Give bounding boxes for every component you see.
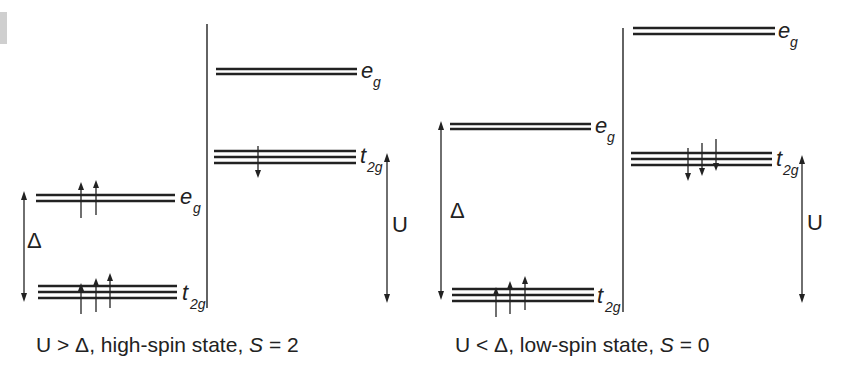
svg-text:e: e — [595, 113, 607, 138]
svg-text:t: t — [182, 280, 189, 305]
panel1-left-t2g-level — [38, 286, 177, 298]
svg-text:e: e — [778, 18, 790, 43]
panel1-right-eg-level — [216, 69, 357, 74]
svg-text:g: g — [607, 129, 615, 145]
panel2-right-eg-level — [633, 28, 775, 34]
p1-left-eg-label: e — [180, 184, 192, 209]
svg-text:t: t — [360, 143, 367, 168]
svg-text:t: t — [776, 146, 783, 171]
panel2-left-eg-level — [450, 124, 591, 129]
svg-text:U: U — [392, 212, 408, 237]
svg-text:2g: 2g — [189, 296, 206, 312]
svg-text:t: t — [597, 283, 604, 308]
svg-text:g: g — [373, 74, 381, 90]
svg-text:e: e — [361, 58, 373, 83]
svg-text:2g: 2g — [782, 162, 799, 178]
panel1-u-arrow — [384, 153, 390, 303]
panel1-left-t2g-electrons — [78, 273, 113, 314]
panel2-left-t2g-level — [452, 289, 594, 301]
caption-low-spin: U < Δ, low-spin state, S = 0 — [455, 333, 710, 357]
spin-value: = 0 — [674, 333, 710, 356]
svg-text:U: U — [807, 210, 823, 235]
svg-text:2g: 2g — [366, 159, 383, 175]
panel2-u-arrow — [799, 155, 805, 303]
svg-text:2g: 2g — [604, 299, 621, 315]
svg-text:Δ: Δ — [27, 228, 42, 253]
panel1-left-eg-level — [36, 195, 175, 201]
svg-text:g: g — [193, 200, 201, 216]
energy-level-diagram: e g t 2g Δ e g t 2g U e g t 2g Δ e g t 2… — [0, 0, 844, 376]
spin-symbol: S — [249, 333, 263, 356]
caption-text: U > Δ, high-spin state, — [36, 333, 249, 356]
svg-text:g: g — [790, 34, 798, 50]
panel1-left-eg-electrons — [78, 180, 99, 218]
panel1-right-t2g-level — [214, 151, 356, 163]
caption-text: U < Δ, low-spin state, — [455, 333, 660, 356]
svg-text:Δ: Δ — [450, 198, 465, 223]
spin-symbol: S — [660, 333, 674, 356]
panel2-delta-arrow — [438, 121, 444, 300]
spin-value: = 2 — [263, 333, 299, 356]
caption-high-spin: U > Δ, high-spin state, S = 2 — [36, 333, 299, 357]
level-labels: e g t 2g Δ e g t 2g U e g t 2g Δ e g t 2… — [27, 18, 823, 315]
panel2-left-t2g-electrons — [493, 276, 528, 317]
